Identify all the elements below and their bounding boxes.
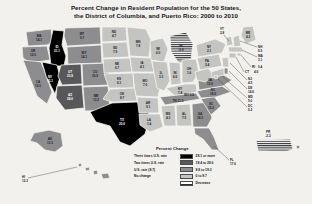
legend-range-2: 9.8 to 19.3	[196, 167, 212, 173]
label-IL-value: 3.3	[159, 75, 164, 79]
legend-rows: Three times U.S. rate 29.1 or more Two t…	[134, 153, 226, 186]
label-MS-value: 4.3	[166, 116, 171, 120]
label-AZ-value: 24.6	[67, 97, 73, 101]
callout-PR-value: -2.2	[265, 134, 271, 138]
callout-HI-value: 12.3	[22, 179, 28, 183]
callout-NJ-value: 4.5	[248, 81, 253, 85]
legend-swatch-1	[180, 160, 193, 165]
legend-swatch-2	[180, 167, 193, 172]
state-DE[interactable]	[224, 68, 228, 74]
legend-heading: Percent Change	[156, 146, 226, 151]
label-AK-value: 13.3	[47, 141, 53, 145]
label-WI-value: 6.0	[156, 51, 161, 55]
label-NY-value: 2.1	[207, 49, 212, 53]
label-AL-value: 7.5	[182, 116, 187, 120]
label-MI-value: -0.6	[178, 48, 184, 52]
legend-range-0: 29.1 or more	[196, 153, 216, 159]
state-HI[interactable]	[78, 163, 82, 167]
label-ID-value: 21.1	[54, 49, 60, 53]
callout-MA-value: 3.1	[258, 58, 263, 62]
label-IA-value: 4.1	[140, 65, 145, 69]
legend-swatch-4-hatch	[180, 181, 193, 186]
state-HI-4[interactable]	[101, 173, 110, 179]
label-OR-value: 12.0	[30, 53, 36, 57]
callout-RI-code: RI	[252, 65, 255, 69]
label-NC-value: 18.5	[210, 92, 216, 96]
label-WV-value: WV 2.5	[184, 93, 194, 97]
label-AR-value: 9.1	[146, 105, 151, 109]
legend-left-label-1: Two times U.S. rate	[134, 160, 180, 166]
legend-left-label-3: No change	[134, 173, 180, 179]
label-KS-value: 6.1	[117, 81, 122, 85]
legend-range-3: 0 to 9.7	[196, 173, 207, 179]
label-GA-value: 18.3	[197, 116, 203, 120]
callout-FL-value: 17.6	[230, 162, 236, 166]
label-SC-value: 15.3	[208, 106, 214, 110]
callout-CT-code: CT	[245, 70, 249, 74]
state-PR-island[interactable]	[296, 145, 300, 149]
label-TN-value: TN 11.5	[173, 99, 184, 103]
state-CT[interactable]	[229, 53, 236, 58]
label-NE-value: 6.7	[115, 66, 120, 70]
label-NV-value: 35.1	[47, 79, 53, 83]
state-NH[interactable]	[233, 35, 241, 47]
label-MN-value: 7.8	[136, 44, 141, 48]
label-UT-value: 23.8	[67, 74, 73, 78]
callout-DC-value: 5.2	[248, 108, 253, 112]
legend-swatch-0	[180, 154, 193, 159]
label-SD-value: 7.9	[113, 50, 118, 54]
label-ND-value: 4.7	[112, 34, 117, 38]
state-DC[interactable]	[214, 75, 218, 79]
label-TX-value: 20.6	[119, 122, 125, 126]
callout-VT-value: 2.8	[220, 31, 225, 35]
legend-swatch-3	[180, 174, 193, 179]
callout-MD-value: 9.0	[248, 99, 253, 103]
label-NM-value: 13.2	[93, 98, 99, 102]
legend-row-3[interactable]: No change 0 to 9.7	[134, 173, 226, 179]
label-OH-value: 1.6	[187, 71, 192, 75]
callout-CT-value: 4.9	[254, 70, 259, 74]
callout-NH-value: 6.5	[258, 49, 263, 53]
legend-left-label-0: Three times U.S. rate	[134, 153, 180, 159]
callout-RI-value: 0.4	[258, 65, 263, 69]
state-HI-3[interactable]	[93, 170, 98, 175]
state-HI-2[interactable]	[85, 167, 90, 171]
label-PA-value: 3.4	[205, 63, 210, 67]
label-CO-value: 16.9	[92, 74, 98, 78]
label-VA-value: 13.0	[207, 82, 213, 86]
label-KY-value: 7.4	[178, 91, 183, 95]
label-LA-value: 1.4	[147, 122, 152, 126]
state-NJ[interactable]	[222, 57, 229, 67]
legend-row-1[interactable]: Two times U.S. rate 19.4 to 29.0	[134, 160, 226, 166]
legend-range-4: Decrease	[196, 180, 211, 186]
legend-range-1: 19.4 to 29.0	[196, 160, 214, 166]
legend-row-0[interactable]: Three times U.S. rate 29.1 or more	[134, 153, 226, 159]
legend-left-label-2: U.S. rate (9.7)	[134, 167, 180, 173]
legend-row-4[interactable]: Decrease	[134, 180, 226, 186]
label-ME-value: 4.2	[246, 35, 251, 39]
legend-row-2[interactable]: U.S. rate (9.7) 9.8 to 19.3	[134, 167, 226, 173]
label-OK-value: 8.7	[120, 96, 125, 100]
label-IN-value: 6.6	[173, 75, 178, 79]
map-figure: Percent Change in Resident Population fo…	[0, 0, 312, 204]
map-legend: Percent Change Three times U.S. rate 29.…	[134, 146, 226, 194]
callout-DE-value: 14.6	[248, 90, 254, 94]
state-MA[interactable]	[228, 47, 243, 52]
label-WY-value: 14.1	[81, 55, 87, 59]
state-RI[interactable]	[237, 53, 241, 56]
label-CA-value: 10.0	[35, 84, 41, 88]
label-MT-value: 9.7	[80, 36, 85, 40]
state-VT[interactable]	[226, 36, 233, 46]
state-PR[interactable]	[256, 139, 293, 152]
label-WA-value: 14.1	[36, 38, 42, 42]
label-MO-value: 7.0	[143, 83, 148, 87]
